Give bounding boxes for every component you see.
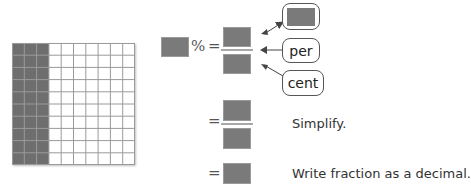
denominator-blank[interactable] [223,54,251,74]
callout-per-label: per [289,43,312,59]
fraction-bar [221,49,253,51]
arrowhead-middle [260,46,267,54]
equals-sign-2: = [208,114,221,129]
callout-number [282,3,320,30]
arrowhead-top [261,29,268,35]
hundred-grid [12,43,135,165]
simplified-numerator-blank[interactable] [223,100,251,121]
callout-per: per [282,38,320,63]
percent-blank[interactable] [161,37,189,57]
arrowhead-bottom [261,64,268,70]
callout-cent-label: cent [288,75,319,91]
step-note-decimal: Write fraction as a decimal. [292,166,471,181]
numerator-blank[interactable] [223,27,251,47]
equals-sign: = [208,39,221,54]
callout-cent: cent [282,70,324,96]
callout-number-blank[interactable] [287,8,315,26]
simplified-denominator-blank[interactable] [223,128,251,149]
percent-symbol: % [191,39,205,54]
hundred-grid-svg [12,43,135,165]
equals-sign-3: = [208,166,221,181]
fraction-bar-2 [221,123,253,125]
step-note-simplify: Simplify. [292,116,346,131]
decimal-blank[interactable] [223,163,251,184]
